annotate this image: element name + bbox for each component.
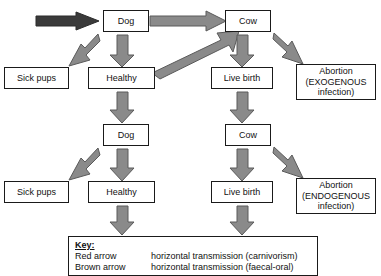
arrow-live-birth-top-to-cow-mid xyxy=(230,92,254,123)
node-sick-pups-top[interactable]: Sick pups xyxy=(4,67,69,89)
node-label: Live birth xyxy=(221,73,264,84)
node-label: Cow xyxy=(236,130,260,141)
key-description: horizontal transmission (carnivorism) xyxy=(151,251,311,262)
node-label: Healthy xyxy=(103,187,140,198)
key-term: Red arrow xyxy=(75,251,151,262)
node-label: Dog xyxy=(115,130,138,141)
arrow-cow-top-to-live-birth xyxy=(230,35,254,67)
node-dog-mid[interactable]: Dog xyxy=(103,124,149,146)
arrow-healthy-top-to-dog-mid xyxy=(110,92,134,123)
node-cow-top[interactable]: Cow xyxy=(225,10,271,32)
arrow-inbound-to-dog xyxy=(36,12,99,30)
node-label: Dog xyxy=(115,16,138,27)
node-label: Sick pups xyxy=(14,187,59,198)
arrow-dog-top-to-healthy xyxy=(110,35,134,67)
node-abortion-exogenous[interactable]: Abortion (EXOGENOUS infection) xyxy=(296,64,376,100)
key-legend-box: Key: Red arrow horizontal transmission (… xyxy=(68,236,318,276)
arrow-dog-mid-to-healthy-bot xyxy=(110,149,134,181)
arrow-healthy-bot-downward xyxy=(110,206,134,235)
key-row-brown-arrow: Brown arrow horizontal transmission (fae… xyxy=(75,262,311,273)
node-label: Abortion (ENDOGENOUS infection) xyxy=(299,180,373,212)
node-label: Sick pups xyxy=(14,73,59,84)
arrow-dog-top-to-sick-pups xyxy=(69,34,100,66)
node-sick-pups-bot[interactable]: Sick pups xyxy=(4,181,69,203)
node-healthy-top[interactable]: Healthy xyxy=(88,67,155,89)
key-term: Brown arrow xyxy=(75,262,151,273)
arrow-cow-mid-to-live-birth-bot xyxy=(230,149,254,181)
node-label: Live birth xyxy=(221,187,264,198)
node-live-birth-top[interactable]: Live birth xyxy=(211,67,273,89)
node-label: Healthy xyxy=(103,73,140,84)
key-description: horizontal transmission (faecal-oral) xyxy=(151,262,311,273)
key-row-red-arrow: Red arrow horizontal transmission (carni… xyxy=(75,251,311,262)
node-label: Cow xyxy=(236,16,260,27)
arrow-dog-top-to-cow-top xyxy=(150,11,226,31)
arrow-cow-top-to-abortion-exogenous xyxy=(273,33,303,64)
node-label: Abortion (EXOGENOUS infection) xyxy=(302,66,369,98)
node-live-birth-bot[interactable]: Live birth xyxy=(211,181,273,203)
key-title: Key: xyxy=(75,240,311,251)
arrow-cow-mid-to-abortion-endogenous xyxy=(273,147,303,178)
node-cow-mid[interactable]: Cow xyxy=(225,124,271,146)
arrow-dog-mid-to-sick-pups xyxy=(69,148,100,180)
node-healthy-bot[interactable]: Healthy xyxy=(88,181,155,203)
node-abortion-endogenous[interactable]: Abortion (ENDOGENOUS infection) xyxy=(296,178,376,214)
node-dog-top[interactable]: Dog xyxy=(103,10,149,32)
arrow-live-birth-bot-downward xyxy=(230,206,254,235)
